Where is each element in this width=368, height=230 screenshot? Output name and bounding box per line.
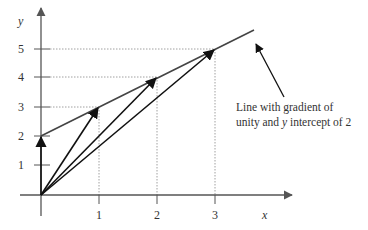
- y-ticks: [34, 49, 50, 165]
- x-axis-label: x: [261, 208, 268, 222]
- x-ticks: [99, 195, 215, 204]
- annotation-line-2: unity and y intercept of 2: [236, 116, 352, 129]
- y-tick-label-2: 2: [18, 129, 24, 143]
- annotation-line-1: Line with gradient of: [236, 101, 334, 114]
- y-tick-label-4: 4: [18, 70, 24, 84]
- y-tick-label-5: 5: [18, 42, 24, 56]
- y-tick-label-1: 1: [18, 158, 24, 172]
- x-tick-label-2: 2: [154, 208, 160, 222]
- x-tick-label-1: 1: [96, 208, 102, 222]
- vector-diagram: 1 2 3 4 5 1 2 3 y x Line with gradient o…: [0, 0, 368, 230]
- vector-2-4: [41, 78, 156, 195]
- annotation-arrow-icon: [256, 44, 284, 97]
- y-axis-label: y: [17, 14, 24, 28]
- x-tick-label-3: 3: [212, 208, 218, 222]
- line-gradient-1-intercept-2: [41, 30, 254, 136]
- y-tick-label-3: 3: [18, 100, 24, 114]
